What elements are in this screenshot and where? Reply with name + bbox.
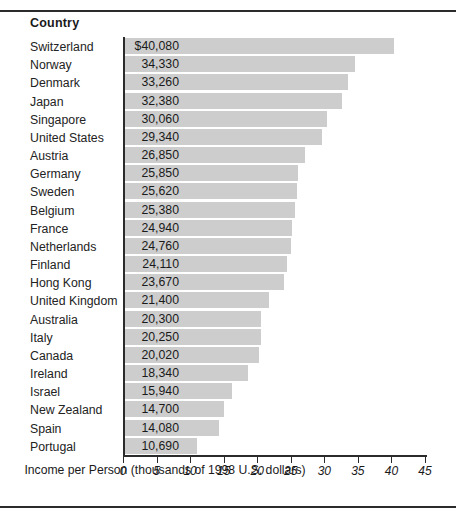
bar-value-label: 30,060 <box>127 111 179 127</box>
bar-row: United Kingdom21,400 <box>123 291 435 311</box>
category-label: France <box>30 221 118 237</box>
bar-row: Japan32,380 <box>123 92 435 112</box>
bar-row: Singapore30,060 <box>123 110 435 130</box>
bar-value-label: 34,330 <box>127 56 179 72</box>
bar-row: Italy20,250 <box>123 328 435 348</box>
bar-value-label: 24,940 <box>127 220 179 236</box>
top-divider-rule <box>0 10 456 12</box>
column-header-country: Country <box>30 16 126 36</box>
bar-value-label: 21,400 <box>127 292 179 308</box>
bar-row: New Zealand14,700 <box>123 400 435 420</box>
bar-row: United States29,340 <box>123 128 435 148</box>
bar-value-label: 26,850 <box>127 147 179 163</box>
bar-value-label: 14,080 <box>127 420 179 436</box>
bar-value-label: 25,380 <box>127 202 179 218</box>
category-label: Singapore <box>30 112 118 128</box>
bar-row: Belgium25,380 <box>123 201 435 221</box>
category-label: Germany <box>30 166 118 182</box>
x-axis-tick <box>391 457 392 463</box>
x-axis-tick-label: 45 <box>410 464 440 478</box>
category-label: Hong Kong <box>30 275 118 291</box>
bar-chart: Country Switzerland$40,080Norway34,330De… <box>0 14 456 494</box>
category-label: Switzerland <box>30 39 118 55</box>
bar-value-label: 14,700 <box>127 401 179 417</box>
category-label: Portugal <box>30 439 118 455</box>
category-label: Italy <box>30 330 118 346</box>
bar-value-label: 32,380 <box>127 93 179 109</box>
bar-value-label: 29,340 <box>127 129 179 145</box>
bar-row: Israel15,940 <box>123 382 435 402</box>
x-axis-tick <box>358 457 359 463</box>
category-label: Belgium <box>30 203 118 219</box>
category-label: Finland <box>30 257 118 273</box>
bar-row: Hong Kong23,670 <box>123 273 435 293</box>
bar-value-label: 20,020 <box>127 347 179 363</box>
bar-row: Norway34,330 <box>123 55 435 75</box>
bar-row: Spain14,080 <box>123 419 435 439</box>
category-label: Ireland <box>30 366 118 382</box>
bar-value-label: 25,850 <box>127 165 179 181</box>
bar-row: Austria26,850 <box>123 146 435 166</box>
x-axis-title: Income per Person (thousands of 1998 U.S… <box>0 463 330 477</box>
category-label: Netherlands <box>30 239 118 255</box>
bar-row: Switzerland$40,080 <box>123 37 435 57</box>
bar-row: Netherlands24,760 <box>123 237 435 257</box>
bar-value-label: 18,340 <box>127 365 179 381</box>
category-label: Canada <box>30 348 118 364</box>
bar-value-label: 20,300 <box>127 311 179 327</box>
bar-row: Ireland18,340 <box>123 364 435 384</box>
category-label: Japan <box>30 94 118 110</box>
x-axis-tick-label: 40 <box>376 464 406 478</box>
bar-row: Australia20,300 <box>123 310 435 330</box>
bar-row: Canada20,020 <box>123 346 435 366</box>
bar-value-label: $40,080 <box>127 38 179 54</box>
bar-row: France24,940 <box>123 219 435 239</box>
x-axis-tick <box>425 457 426 463</box>
bottom-divider-rule <box>0 506 456 508</box>
category-label: New Zealand <box>30 402 118 418</box>
bar-value-label: 24,760 <box>127 238 179 254</box>
category-label: Norway <box>30 57 118 73</box>
category-label: Spain <box>30 421 118 437</box>
category-label: Israel <box>30 384 118 400</box>
bar-value-label: 23,670 <box>127 274 179 290</box>
bar-row: Portugal10,690 <box>123 437 435 457</box>
bar-row: Finland24,110 <box>123 255 435 275</box>
x-axis-tick-label: 35 <box>343 464 373 478</box>
bar-row: Denmark33,260 <box>123 73 435 93</box>
category-label: Austria <box>30 148 118 164</box>
figure-container: Country Switzerland$40,080Norway34,330De… <box>0 0 456 521</box>
category-label: Australia <box>30 312 118 328</box>
bar-value-label: 33,260 <box>127 74 179 90</box>
bar-value-label: 25,620 <box>127 183 179 199</box>
bar-value-label: 24,110 <box>127 256 179 272</box>
bar-row: Sweden25,620 <box>123 182 435 202</box>
bar-row: Germany25,850 <box>123 164 435 184</box>
plot-area: Switzerland$40,080Norway34,330Denmark33,… <box>123 37 435 455</box>
bar-value-label: 10,690 <box>127 438 179 454</box>
category-label: United Kingdom <box>30 293 118 309</box>
category-label: Denmark <box>30 75 118 91</box>
category-label: Sweden <box>30 184 118 200</box>
bar-value-label: 20,250 <box>127 329 179 345</box>
bar-value-label: 15,940 <box>127 383 179 399</box>
category-label: United States <box>30 130 118 146</box>
